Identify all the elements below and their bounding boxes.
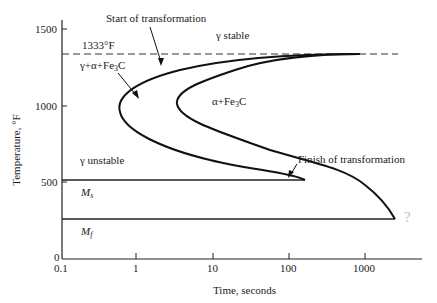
ttt-diagram: [0, 0, 437, 303]
gamma-alpha-fe3c-label: γ+α+Fe3C: [80, 60, 125, 73]
y-tick-1000: 1000: [35, 101, 57, 112]
mf-label: Mf: [81, 226, 92, 239]
start-arrow: [150, 27, 164, 66]
y-tick-1500: 1500: [35, 24, 57, 35]
ms-label: Ms: [81, 187, 93, 200]
handwritten-question-mark: ?: [404, 209, 411, 226]
x-axis-label: Time, seconds: [213, 284, 276, 296]
x-ticks: [136, 253, 365, 259]
x-tick-1: 1: [133, 263, 139, 274]
x-tick-1000: 1000: [353, 263, 375, 274]
start-transformation-label: Start of transformation: [106, 13, 206, 24]
alpha-fe3c-label: α+Fe3C: [212, 96, 246, 109]
y-tick-500: 500: [41, 177, 58, 188]
gamma-unstable-label: γ unstable: [80, 155, 124, 166]
finish-transformation-label: Finish of transformation: [298, 154, 405, 165]
y-ticks: [62, 29, 67, 182]
x-tick-10: 10: [207, 263, 218, 274]
x-tick-100: 100: [280, 263, 297, 274]
eutectoid-temp-label: 1333°F: [82, 40, 115, 51]
y-axis-label: Temperature, °F: [10, 114, 22, 185]
finish-transformation-curve: [177, 54, 395, 219]
x-tick-0-1: 0.1: [54, 263, 68, 274]
gamma-stable-label: γ stable: [216, 30, 249, 41]
